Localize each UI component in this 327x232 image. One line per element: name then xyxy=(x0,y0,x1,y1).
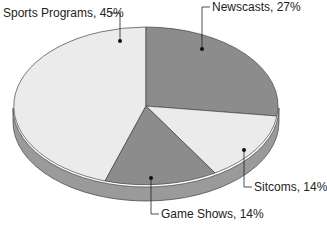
slice-newscasts xyxy=(146,27,278,116)
label-game-shows: Game Shows, 14% xyxy=(161,207,264,221)
label-sitcoms: Sitcoms, 14% xyxy=(254,180,327,194)
label-newscasts: Newscasts, 27% xyxy=(212,0,301,14)
cropped-caption-fragment xyxy=(0,220,323,232)
label-sports-programs: Sports Programs, 45% xyxy=(3,6,124,20)
